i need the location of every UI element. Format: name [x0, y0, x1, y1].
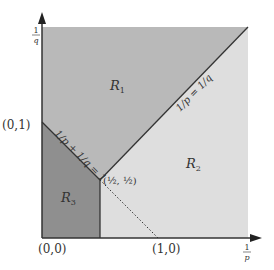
x-axis-label: 1 p [243, 243, 251, 262]
y-axis-arrow-icon [38, 12, 46, 24]
y-axis-label: 1 q [32, 26, 40, 45]
point-half: (½, ½) [103, 175, 137, 186]
svg-text:q: q [33, 36, 38, 45]
lp-interpolation-diagram: 1 q 1 p R1 R2 R3 (0,1) (0,0) (1,0) (½, ½… [0, 0, 274, 270]
point-origin: (0,0) [38, 242, 66, 256]
point-y-one: (0,1) [2, 118, 30, 132]
svg-text:1: 1 [33, 26, 38, 35]
point-x-one: (1,0) [152, 242, 180, 256]
svg-text:p: p [244, 253, 249, 262]
svg-text:1: 1 [244, 243, 249, 252]
x-axis-arrow-icon [250, 234, 262, 242]
